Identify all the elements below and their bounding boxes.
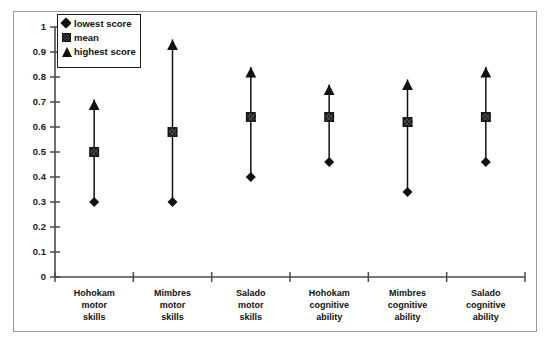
x-axis-category-label: skills bbox=[161, 312, 184, 322]
x-axis-category-label: skills bbox=[83, 312, 106, 322]
chart-container: 10.90.80.70.60.50.40.30.20.10 Hohokammot… bbox=[0, 0, 551, 349]
data-series-item bbox=[245, 67, 256, 182]
x-axis-category-label: ability bbox=[473, 312, 499, 322]
highest-score-marker bbox=[167, 40, 178, 51]
x-axis-category-label: Mimbres bbox=[389, 288, 426, 298]
x-axis-category-label: cognitive bbox=[466, 300, 506, 310]
data-series-item bbox=[480, 67, 491, 167]
lowest-score-marker bbox=[246, 172, 256, 182]
lowest-score-marker bbox=[89, 197, 99, 207]
x-axis-category-label: cognitive bbox=[309, 300, 349, 310]
y-axis-tick-label: 0.8 bbox=[33, 71, 46, 82]
legend-label: lowest score bbox=[74, 18, 132, 30]
data-series-item bbox=[402, 80, 413, 198]
x-axis-category-label: Hohokam bbox=[309, 288, 350, 298]
mean-marker bbox=[482, 113, 491, 122]
highest-score-marker bbox=[245, 67, 256, 78]
x-axis-category-label: Salado bbox=[236, 288, 266, 298]
mean-marker bbox=[247, 113, 256, 122]
lowest-score-marker bbox=[324, 157, 334, 167]
chart-legend: lowest score mean highest score bbox=[57, 14, 141, 68]
mean-marker bbox=[90, 148, 99, 157]
x-axis-category-label: motor bbox=[160, 300, 186, 310]
y-axis-tick-label: 0.3 bbox=[33, 196, 46, 207]
diamond-marker-icon bbox=[61, 18, 73, 30]
highest-score-marker bbox=[324, 85, 335, 96]
legend-label: mean bbox=[74, 32, 99, 44]
data-series-group bbox=[89, 40, 491, 208]
highest-score-marker bbox=[89, 100, 100, 111]
y-axis-tick-label: 0.6 bbox=[33, 121, 46, 132]
y-axis-tick-label: 1 bbox=[41, 21, 47, 32]
y-axis-tick-label: 0.9 bbox=[33, 46, 46, 57]
lowest-score-marker bbox=[403, 187, 413, 197]
y-axis-tick-label: 0.2 bbox=[33, 221, 46, 232]
legend-item-mean: mean bbox=[61, 31, 136, 45]
x-axis-category-label: Mimbres bbox=[154, 288, 191, 298]
x-axis-category-label: skills bbox=[240, 312, 263, 322]
data-series-item bbox=[324, 85, 335, 168]
x-axis bbox=[55, 272, 525, 282]
x-axis-category-label: Salado bbox=[471, 288, 501, 298]
y-axis-tick-label: 0.4 bbox=[33, 171, 47, 182]
highest-score-marker bbox=[480, 67, 491, 78]
x-axis-category-label: Hohokam bbox=[74, 288, 115, 298]
triangle-marker-icon bbox=[61, 46, 73, 58]
legend-item-highest-score: highest score bbox=[61, 45, 136, 59]
data-series-item bbox=[167, 40, 178, 208]
y-axis-tick-label: 0.1 bbox=[33, 246, 47, 257]
mean-marker bbox=[403, 118, 412, 127]
x-axis-category-label: motor bbox=[238, 300, 264, 310]
x-axis-category-label: cognitive bbox=[388, 300, 428, 310]
lowest-score-marker bbox=[481, 157, 491, 167]
square-marker-icon bbox=[61, 32, 73, 44]
category-labels: HohokammotorskillsMimbresmotorskillsSala… bbox=[74, 288, 506, 322]
mean-marker bbox=[168, 128, 177, 137]
highest-score-marker bbox=[402, 80, 413, 91]
legend-label: highest score bbox=[74, 46, 136, 58]
x-axis-category-label: motor bbox=[81, 300, 107, 310]
legend-item-lowest-score: lowest score bbox=[61, 17, 136, 31]
y-axis-tick-label: 0.7 bbox=[33, 96, 46, 107]
data-series-item bbox=[89, 100, 100, 208]
x-axis-category-label: ability bbox=[394, 312, 420, 322]
y-axis-tick-label: 0.5 bbox=[33, 146, 47, 157]
lowest-score-marker bbox=[168, 197, 178, 207]
x-axis-category-label: ability bbox=[316, 312, 342, 322]
mean-marker bbox=[325, 113, 334, 122]
y-axis: 10.90.80.70.60.50.40.30.20.10 bbox=[33, 21, 60, 282]
y-axis-tick-label: 0 bbox=[41, 271, 46, 282]
